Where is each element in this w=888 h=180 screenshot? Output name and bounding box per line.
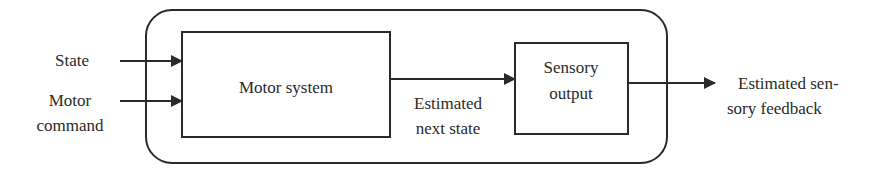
sensory-output-label-line1: Sensory	[544, 58, 599, 77]
estimated-sensory-feedback-label-line2: sory feedback	[727, 99, 822, 118]
motor-command-label-line2: command	[36, 116, 104, 135]
state-label: State	[55, 51, 89, 70]
estimated-next-state-label-line2: next state	[416, 119, 481, 138]
sensory-output-label-line2: output	[549, 84, 593, 103]
motor-system-label: Motor system	[239, 78, 333, 97]
estimated-next-state-label-line1: Estimated	[414, 94, 482, 113]
motor-command-label-line1: Motor	[49, 91, 92, 110]
forward-model-diagram: State Motor command Motor system Estimat…	[0, 0, 888, 180]
estimated-sensory-feedback-label-line1: Estimated sen-	[738, 74, 839, 93]
